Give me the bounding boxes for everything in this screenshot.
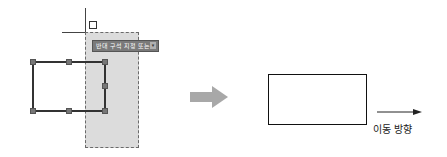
tooltip-text: 반대 구석 지정 또는 [96, 42, 150, 49]
crosshair-horizontal-line [62, 32, 85, 33]
right-arrow-icon [190, 86, 230, 108]
grip-bottom-left[interactable] [30, 108, 36, 114]
grip-top-right[interactable] [102, 59, 108, 65]
grip-bottom-mid[interactable] [66, 108, 72, 114]
pickbox-icon [89, 21, 97, 29]
command-prompt-tooltip: 반대 구석 지정 또는 ▾ [92, 40, 159, 52]
crosshair-vertical-line [85, 8, 86, 32]
rectangle-after-stretch [268, 74, 367, 125]
down-arrow-icon[interactable]: ▾ [150, 42, 156, 49]
grip-top-left[interactable] [30, 59, 36, 65]
rectangle-before-stretch [32, 61, 106, 112]
grip-top-mid[interactable] [66, 59, 72, 65]
grip-bottom-right[interactable] [102, 108, 108, 114]
direction-arrow-icon [377, 108, 423, 116]
direction-label: 이동 방향 [373, 121, 412, 136]
grip-right-mid[interactable] [102, 83, 108, 89]
